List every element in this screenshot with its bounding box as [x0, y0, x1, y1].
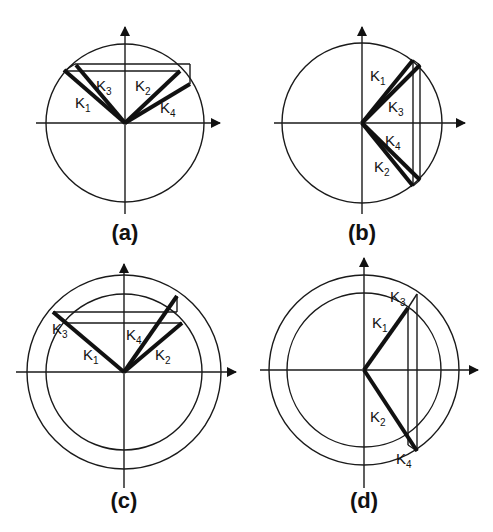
- wave-vector-diagram-figure: K1 K3 K2 K4 (a) K1 K3 K4 K2 (b): [0, 0, 493, 532]
- panel-caption-d: (d): [350, 488, 378, 513]
- panel-b: K1 K3 K4 K2 (b): [274, 27, 465, 245]
- label-k4: K4: [126, 326, 142, 346]
- label-k1: K1: [370, 67, 386, 87]
- label-k1: K1: [75, 94, 91, 114]
- vector-k1: [53, 312, 124, 372]
- label-k2: K2: [155, 346, 171, 366]
- label-k3: K3: [388, 98, 404, 118]
- label-k2: K2: [370, 408, 386, 428]
- panel-caption-c: (c): [111, 488, 138, 513]
- label-k2: K2: [374, 158, 390, 178]
- vector-k1: [364, 308, 408, 370]
- label-k4: K4: [160, 99, 176, 119]
- panel-a: K1 K3 K2 K4 (a): [36, 27, 220, 245]
- label-k2: K2: [135, 77, 151, 97]
- panel-caption-a: (a): [112, 220, 139, 245]
- panel-caption-b: (b): [348, 220, 376, 245]
- label-k3: K3: [390, 288, 406, 308]
- panel-c: K3 K1 K4 K2 (c): [16, 264, 236, 513]
- construction-line: [408, 294, 417, 308]
- panel-d: K3 K1 K2 K4 (d): [260, 258, 478, 513]
- label-k1: K1: [372, 314, 388, 334]
